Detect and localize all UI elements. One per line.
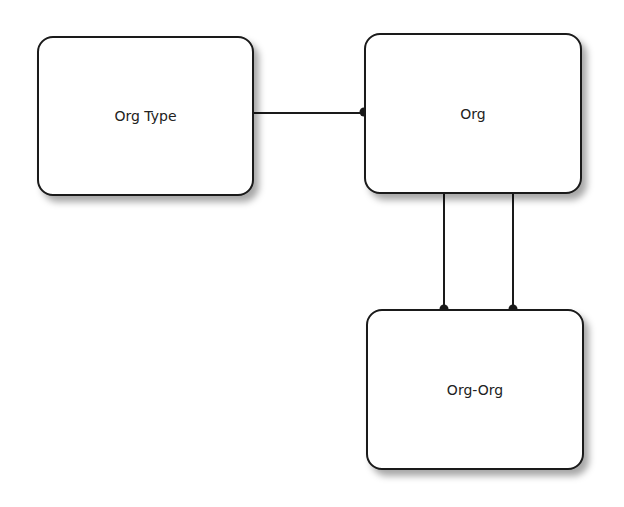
entity-label: Org	[460, 106, 485, 122]
entity-label: Org Type	[114, 108, 176, 124]
entity-org-type[interactable]: Org Type	[37, 36, 254, 196]
entity-org-org[interactable]: Org-Org	[366, 309, 584, 470]
entity-label: Org-Org	[447, 382, 503, 398]
entity-org[interactable]: Org	[364, 33, 582, 194]
